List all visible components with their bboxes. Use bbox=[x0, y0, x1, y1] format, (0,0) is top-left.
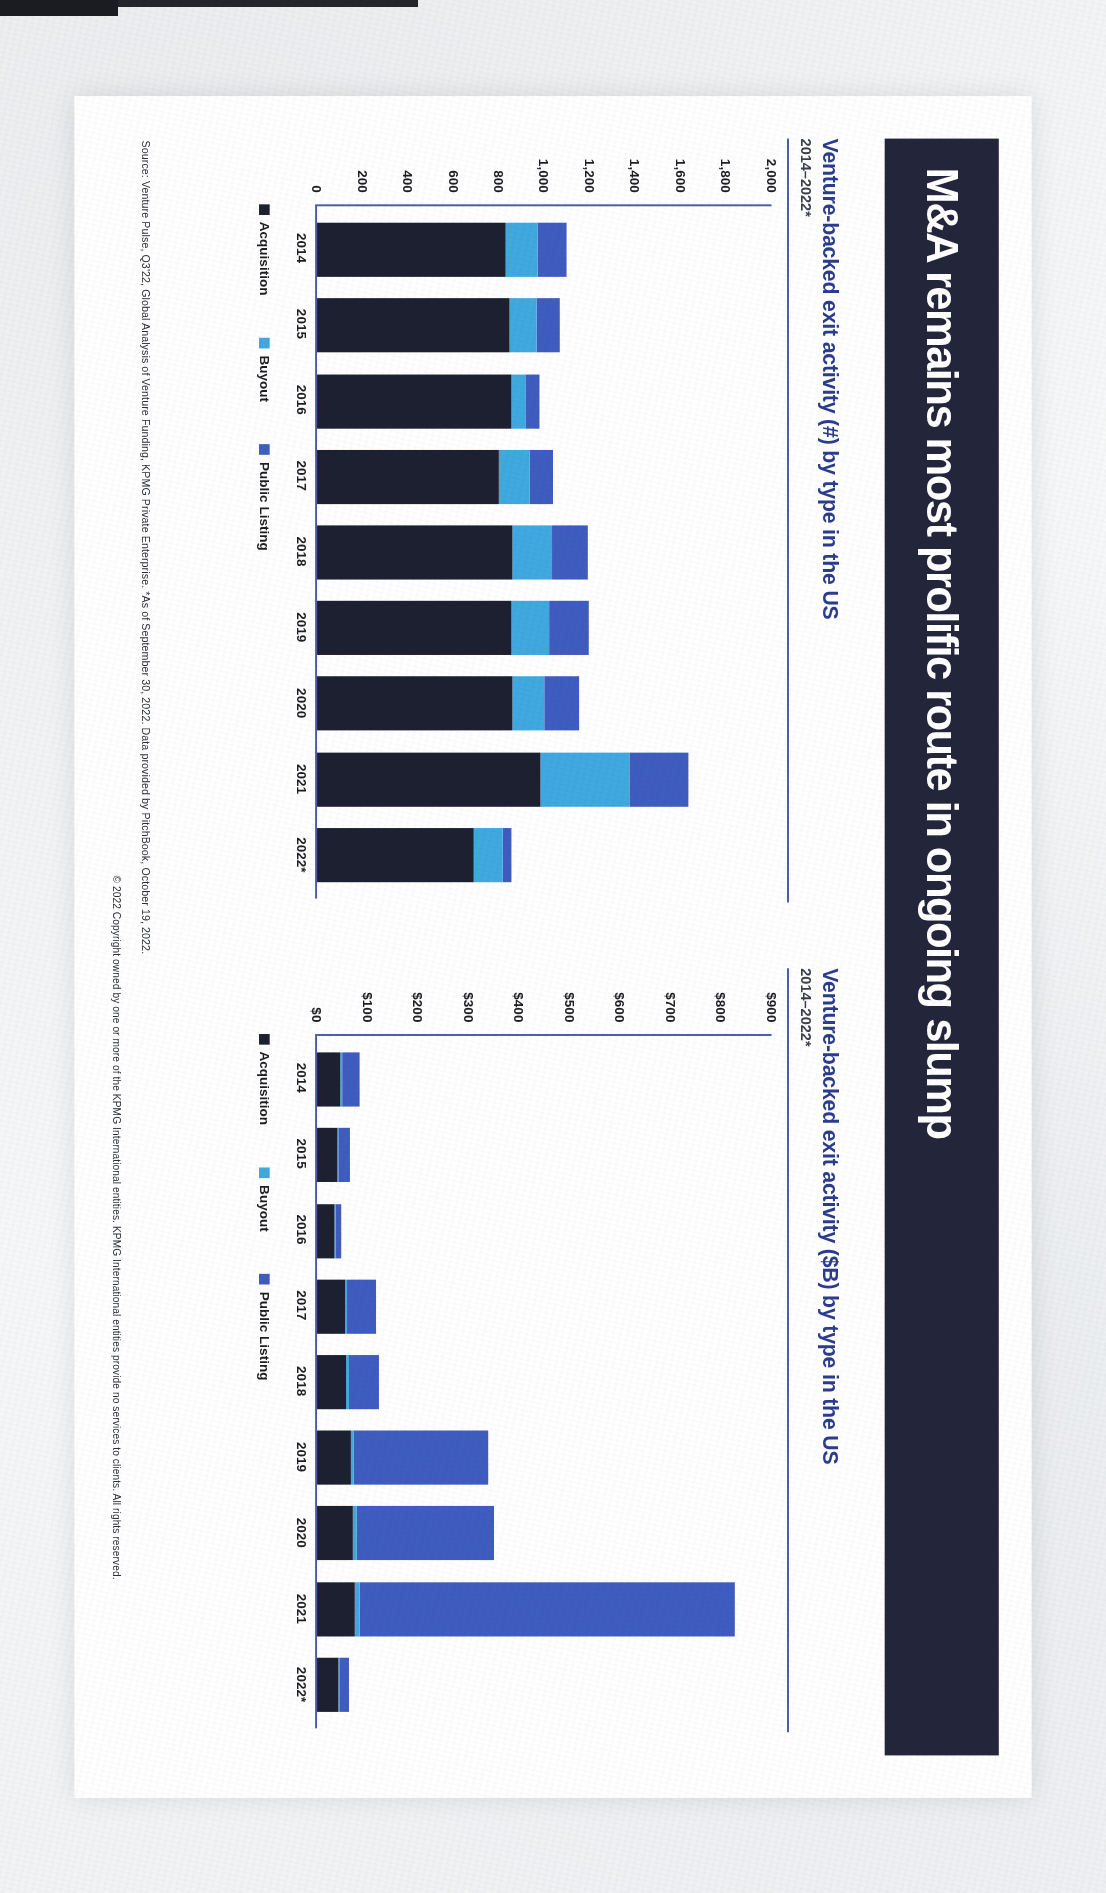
chart-value-ytick: $700 bbox=[663, 992, 678, 1022]
chart-value-segment-acquisition bbox=[317, 1506, 352, 1560]
chart-count-segment-public-listing bbox=[530, 449, 554, 503]
chart-count-segment-buyout bbox=[509, 298, 536, 352]
chart-value-segment-buyout bbox=[338, 1657, 340, 1711]
chart-count-segment-acquisition bbox=[317, 298, 509, 352]
chart-value-segment-buyout bbox=[345, 1279, 347, 1333]
source-note: Source: Venture Pulse, Q3'22, Global Ana… bbox=[140, 140, 152, 954]
chart-value-segment-acquisition bbox=[317, 1052, 340, 1106]
chart-count-segment-buyout bbox=[512, 525, 552, 579]
chart-value-subtitle: 2014–2022* bbox=[798, 968, 814, 1732]
chart-value-baseline bbox=[315, 1034, 317, 1728]
chart-value-segment-acquisition bbox=[317, 1355, 346, 1409]
chart-count-xaxis-labels: 201420152016201720182019202020212022* bbox=[294, 204, 309, 898]
chart-value-segment-buyout bbox=[337, 1128, 339, 1182]
chart-value-bar bbox=[317, 1430, 771, 1484]
chart-value-xtick: 2022* bbox=[294, 1657, 309, 1711]
chart-value-bar bbox=[317, 1128, 771, 1182]
chart-count-segment-acquisition bbox=[317, 601, 511, 655]
chart-count-segment-acquisition bbox=[317, 752, 541, 806]
chart-count-segment-buyout bbox=[474, 827, 502, 881]
chart-count-bar bbox=[317, 298, 771, 352]
chart-count-bar bbox=[317, 752, 771, 806]
chart-value-xtick: 2016 bbox=[294, 1202, 309, 1256]
chart-value-segment-buyout bbox=[340, 1052, 342, 1106]
chart-count-legend-item: Acquisition bbox=[257, 204, 272, 295]
chart-count-ytick: 1,000 bbox=[537, 158, 552, 192]
chart-value-xtick: 2014 bbox=[294, 1050, 309, 1104]
chart-count-legend-item: Buyout bbox=[257, 338, 272, 402]
chart-value-legend-item: Buyout bbox=[257, 1167, 272, 1231]
legend-swatch-icon bbox=[260, 444, 271, 455]
chart-value-segment-buyout bbox=[346, 1355, 349, 1409]
chart-count-plot: 02004006008001,0001,2001,4001,6001,8002,… bbox=[249, 138, 771, 902]
chart-value-segment-acquisition bbox=[317, 1657, 338, 1711]
chart-count-subtitle: 2014–2022* bbox=[798, 138, 814, 902]
chart-value-bar bbox=[317, 1506, 771, 1560]
chart-value-segment-buyout bbox=[352, 1506, 356, 1560]
chart-count-segment-public-listing bbox=[502, 827, 511, 881]
chart-count-segment-buyout bbox=[511, 601, 548, 655]
chart-value-segment-public-listing bbox=[356, 1506, 493, 1560]
chart-count-axis bbox=[317, 204, 771, 898]
page-title: M&A remains most prolific route in ongoi… bbox=[917, 138, 967, 1138]
chart-value-legend-label: Public Listing bbox=[257, 1291, 272, 1380]
chart-count-xtick: 2021 bbox=[294, 751, 309, 805]
photo-edge-sliver-2 bbox=[118, 0, 418, 7]
chart-value-legend: AcquisitionBuyoutPublic Listing bbox=[257, 1034, 272, 1380]
chart-count-bar bbox=[317, 525, 771, 579]
chart-count-segment-acquisition bbox=[317, 222, 506, 276]
chart-value-ytick: $300 bbox=[461, 992, 476, 1022]
chart-value-yaxis-labels: $0$100$200$300$400$500$600$700$800$900 bbox=[317, 968, 771, 1028]
chart-count-bar bbox=[317, 601, 771, 655]
legend-swatch-icon bbox=[260, 204, 271, 215]
chart-count-xtick: 2019 bbox=[294, 600, 309, 654]
chart-count-xtick: 2017 bbox=[294, 448, 309, 502]
chart-count-segment-acquisition bbox=[317, 827, 474, 881]
chart-count-segment-buyout bbox=[511, 374, 526, 428]
chart-value-xtick: 2021 bbox=[294, 1581, 309, 1635]
chart-value-segment-public-listing bbox=[359, 1581, 735, 1635]
chart-count-xtick: 2016 bbox=[294, 372, 309, 426]
chart-value-title: Venture-backed exit activity ($B) by typ… bbox=[817, 968, 842, 1732]
chart-value-segment-public-listing bbox=[339, 1128, 350, 1182]
chart-value-bar bbox=[317, 1657, 771, 1711]
chart-count-ytick: 1,400 bbox=[627, 158, 642, 192]
chart-count-bar bbox=[317, 676, 771, 730]
chart-count-xtick: 2018 bbox=[294, 524, 309, 578]
chart-count-bar bbox=[317, 222, 771, 276]
chart-count-segment-public-listing bbox=[537, 222, 567, 276]
chart-count-ytick: 2,000 bbox=[764, 158, 779, 192]
chart-count-legend-item: Public Listing bbox=[257, 444, 272, 550]
chart-count-segment-buyout bbox=[499, 449, 530, 503]
chart-count-segment-acquisition bbox=[317, 525, 512, 579]
chart-value-segment-acquisition bbox=[317, 1430, 351, 1484]
copyright-note: © 2022 Copyright owned by one or more of… bbox=[111, 875, 123, 1579]
chart-value-segment-acquisition bbox=[317, 1128, 337, 1182]
chart-count-segment-public-listing bbox=[549, 601, 589, 655]
chart-count-segment-buyout bbox=[512, 676, 544, 730]
chart-value-segment-acquisition bbox=[317, 1203, 334, 1257]
chart-count-segment-acquisition bbox=[317, 449, 499, 503]
chart-count-segment-public-listing bbox=[544, 676, 579, 730]
chart-count-ytick: 200 bbox=[355, 170, 370, 193]
chart-count-segment-buyout bbox=[541, 752, 630, 806]
chart-value-segment-public-listing bbox=[340, 1657, 349, 1711]
photo-edge-sliver bbox=[0, 0, 118, 16]
chart-value-legend-item: Acquisition bbox=[257, 1034, 272, 1125]
chart-value: Venture-backed exit activity ($B) by typ… bbox=[175, 968, 842, 1732]
chart-value-segment-public-listing bbox=[353, 1430, 488, 1484]
chart-count-xtick: 2014 bbox=[294, 220, 309, 274]
chart-value-segment-buyout bbox=[354, 1581, 359, 1635]
chart-count-baseline bbox=[315, 204, 317, 898]
chart-value-axis bbox=[317, 1034, 771, 1728]
chart-count-xtick: 2015 bbox=[294, 296, 309, 350]
chart-value-xtick: 2019 bbox=[294, 1429, 309, 1483]
legend-swatch-icon bbox=[260, 1034, 271, 1045]
chart-count-header: Venture-backed exit activity (#) by type… bbox=[787, 138, 842, 902]
chart-value-bar bbox=[317, 1203, 771, 1257]
chart-count-ytick: 1,200 bbox=[582, 158, 597, 192]
legend-swatch-icon bbox=[260, 338, 271, 349]
chart-value-bars bbox=[317, 1035, 771, 1727]
chart-count-segment-public-listing bbox=[536, 298, 560, 352]
chart-count-segment-public-listing bbox=[552, 525, 587, 579]
